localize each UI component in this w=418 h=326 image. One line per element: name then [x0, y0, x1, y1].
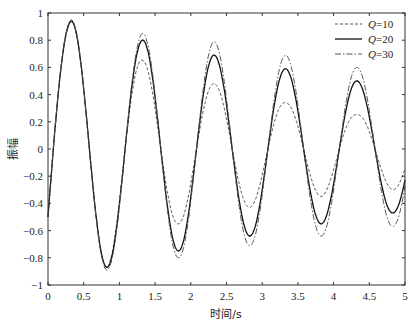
- y-tick-label: −0.6: [23, 225, 43, 237]
- y-axis-label: 振幅: [6, 138, 20, 160]
- x-tick-label: 2.5: [220, 290, 234, 302]
- series-line: [48, 21, 405, 267]
- y-tick-label: 1: [38, 7, 44, 19]
- y-tick-label: 0: [38, 143, 44, 155]
- x-axis-label: 时间/s: [210, 308, 242, 321]
- x-tick-label: 0.5: [77, 290, 91, 302]
- y-tick-label: −0.8: [23, 252, 43, 264]
- axes: 00.511.522.533.544.55−1−0.8−0.6−0.4−0.20…: [23, 7, 408, 302]
- line-chart: 00.511.522.533.544.55−1−0.8−0.6−0.4−0.20…: [0, 0, 418, 326]
- y-tick-label: 0.6: [29, 61, 43, 73]
- y-tick-label: −1: [31, 279, 43, 291]
- y-tick-label: 0.2: [29, 116, 43, 128]
- plot-area: [48, 20, 405, 270]
- y-tick-label: 0.4: [29, 89, 43, 101]
- series-line: [48, 21, 405, 267]
- x-tick-label: 4: [331, 290, 337, 302]
- y-tick-label: −0.2: [23, 170, 43, 182]
- y-tick-label: 0.8: [29, 34, 43, 46]
- x-tick-label: 1.5: [148, 290, 162, 302]
- legend-item: Q=30: [368, 48, 394, 60]
- legend-item: Q=20: [368, 33, 394, 45]
- x-tick-label: 3.5: [291, 290, 305, 302]
- x-tick-label: 2: [188, 290, 194, 302]
- legend-item: Q=10: [368, 18, 394, 30]
- series-line: [48, 20, 405, 270]
- x-tick-label: 4.5: [362, 290, 376, 302]
- legend: Q=10Q=20Q=30: [335, 18, 394, 60]
- x-tick-label: 3: [259, 290, 265, 302]
- x-tick-label: 5: [402, 290, 408, 302]
- x-tick-label: 1: [117, 290, 123, 302]
- y-tick-label: −0.4: [23, 197, 43, 209]
- x-tick-label: 0: [45, 290, 51, 302]
